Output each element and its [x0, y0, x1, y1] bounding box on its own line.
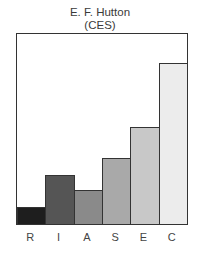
bar-a: [74, 190, 103, 224]
x-tick-label: S: [101, 231, 129, 243]
bar-r: [17, 207, 46, 224]
plot-area: [16, 33, 188, 225]
bar-s: [102, 158, 131, 225]
chart-title: E. F. Hutton: [0, 6, 200, 19]
bar-e: [130, 127, 159, 224]
x-tick-label: E: [129, 231, 157, 243]
chart-subtitle: (CES): [0, 19, 200, 32]
x-tick-label: A: [73, 231, 101, 243]
x-tick-label: C: [158, 231, 186, 243]
x-tick-label: R: [16, 231, 44, 243]
bar-c: [159, 63, 188, 225]
x-tick-label: I: [44, 231, 72, 243]
bar-i: [45, 175, 74, 224]
